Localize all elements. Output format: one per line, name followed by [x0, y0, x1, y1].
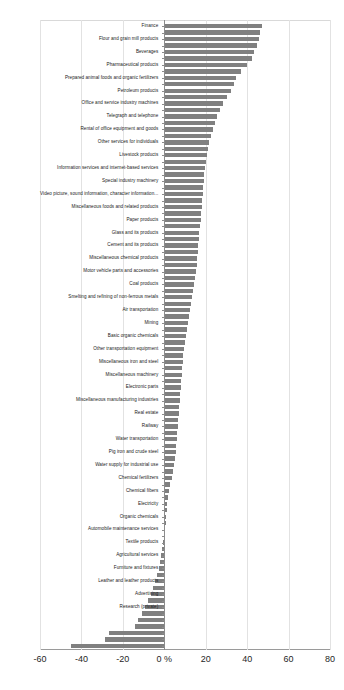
- x-tick-label: 60: [284, 654, 294, 664]
- x-tick-label: 0 %: [157, 654, 173, 664]
- bar: [164, 24, 261, 28]
- bar: [164, 411, 179, 415]
- bar: [164, 205, 201, 209]
- bar: [164, 179, 203, 183]
- bar: [164, 269, 196, 273]
- bar: [164, 237, 199, 241]
- bar: [164, 224, 200, 228]
- bar: [164, 114, 217, 118]
- bar: [164, 385, 181, 389]
- bar: [164, 218, 200, 222]
- bar: [164, 101, 223, 105]
- bar: [135, 624, 164, 628]
- bar: [164, 373, 182, 377]
- bar: [164, 50, 254, 54]
- bar: [164, 89, 230, 93]
- bar: [164, 82, 233, 86]
- bar: [71, 644, 164, 648]
- x-tick-label: -20: [116, 654, 129, 664]
- bar: [164, 76, 235, 80]
- bar: [164, 444, 176, 448]
- bar: [164, 37, 258, 41]
- bar: [164, 192, 202, 196]
- bar: [164, 243, 198, 247]
- bar: [164, 379, 181, 383]
- bar: [109, 631, 164, 635]
- bar: [164, 256, 197, 260]
- bar: [164, 160, 205, 164]
- x-tick-label: 40: [242, 654, 252, 664]
- bar: [164, 437, 176, 441]
- bar: [164, 334, 186, 338]
- zero-axis-line: [164, 20, 165, 650]
- bar: [164, 418, 178, 422]
- bar: [142, 611, 165, 615]
- x-tick-label: 20: [201, 654, 211, 664]
- bar: [164, 231, 199, 235]
- bar: [164, 456, 174, 460]
- bar: [164, 469, 172, 473]
- bar: [164, 95, 227, 99]
- bar: [164, 476, 171, 480]
- x-tick-label: -40: [75, 654, 88, 664]
- bar: [164, 56, 252, 60]
- bar: [164, 121, 215, 125]
- bar-row: [40, 643, 330, 649]
- bar: [164, 360, 183, 364]
- bar: [164, 347, 184, 351]
- bar: [138, 618, 164, 622]
- bar: [164, 424, 177, 428]
- bar: [164, 295, 192, 299]
- bar: [164, 463, 173, 467]
- bar: [164, 30, 260, 34]
- bar: [164, 43, 257, 47]
- bar: [164, 140, 209, 144]
- bar: [164, 353, 183, 357]
- bar: [105, 637, 164, 641]
- x-tick-label: 80: [325, 654, 335, 664]
- bar: [164, 211, 201, 215]
- bar: [164, 392, 180, 396]
- horizontal-bar-chart: FinanceFlour and grain mill productsBeve…: [0, 0, 344, 690]
- bar: [164, 134, 211, 138]
- bar: [164, 302, 191, 306]
- bar: [164, 366, 182, 370]
- bar: [164, 63, 247, 67]
- plot-top-border: [40, 20, 330, 21]
- bar: [164, 166, 204, 170]
- bar: [164, 172, 204, 176]
- bar: [164, 250, 198, 254]
- bar: [164, 263, 197, 267]
- plot-area: FinanceFlour and grain mill productsBeve…: [40, 20, 330, 650]
- bar: [164, 282, 194, 286]
- x-axis-line: [40, 649, 330, 650]
- bar: [164, 450, 175, 454]
- bar: [164, 289, 193, 293]
- bar: [164, 276, 195, 280]
- bar: [164, 431, 177, 435]
- bar: [164, 308, 190, 312]
- bar: [164, 127, 213, 131]
- bar: [164, 314, 189, 318]
- bar: [164, 321, 188, 325]
- bar: [164, 198, 202, 202]
- bar: [164, 108, 220, 112]
- bar: [164, 147, 208, 151]
- gridline-80: [330, 20, 331, 650]
- bar: [164, 398, 180, 402]
- bar: [164, 153, 206, 157]
- bar: [164, 405, 179, 409]
- bar: [164, 327, 187, 331]
- bar: [164, 185, 203, 189]
- bar: [164, 69, 241, 73]
- x-tick-label: -60: [33, 654, 46, 664]
- bar: [164, 340, 185, 344]
